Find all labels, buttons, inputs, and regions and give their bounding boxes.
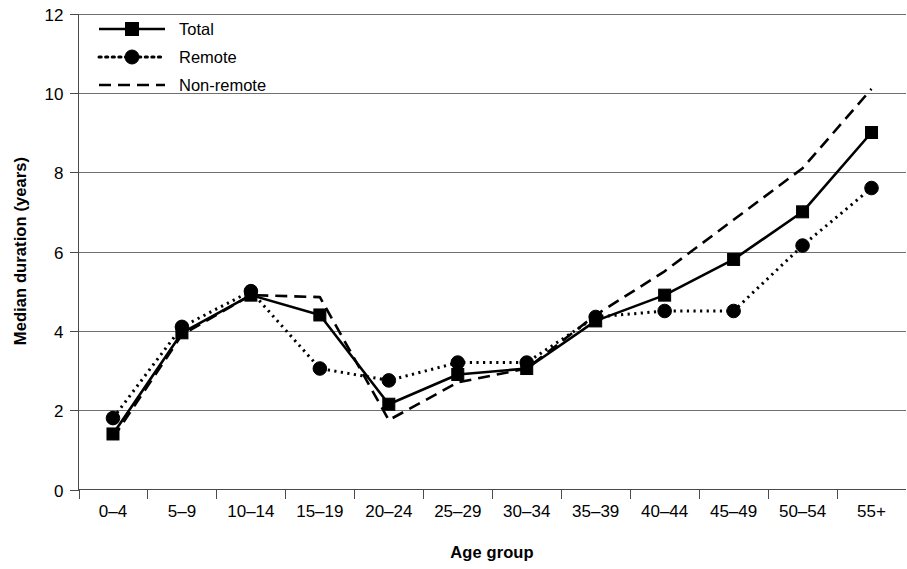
x-tick-label: 35–39 xyxy=(572,502,619,521)
series-line-total xyxy=(113,133,872,435)
data-point xyxy=(106,411,120,425)
y-tick-label: 12 xyxy=(45,6,64,25)
series-non-remote xyxy=(113,89,872,438)
data-point xyxy=(796,239,810,253)
x-tick-label: 40–44 xyxy=(641,502,688,521)
x-axis-title: Age group xyxy=(450,543,533,561)
chart-legend: TotalRemoteNon-remote xyxy=(99,20,266,94)
series-remote xyxy=(106,181,878,425)
legend-label-total: Total xyxy=(179,20,214,38)
x-tick-label: 50–54 xyxy=(779,502,826,521)
data-point xyxy=(313,362,327,376)
data-point xyxy=(865,181,879,195)
line-chart: 024681012 0–45–910–1415–1920–2425–2930–3… xyxy=(0,0,907,569)
chart-figure: 024681012 0–45–910–1415–1920–2425–2930–3… xyxy=(0,0,907,569)
data-point xyxy=(658,304,672,318)
y-tick-label: 0 xyxy=(54,482,63,501)
x-tick-label: 10–14 xyxy=(227,502,274,521)
data-point xyxy=(451,356,465,370)
data-point xyxy=(866,127,878,139)
legend-marker-square xyxy=(126,23,139,36)
data-point xyxy=(728,253,740,265)
legend-marker-circle xyxy=(125,50,139,64)
data-point xyxy=(382,374,396,388)
legend-label-non-remote: Non-remote xyxy=(179,76,266,94)
grid-lines xyxy=(79,15,907,411)
data-point xyxy=(520,356,534,370)
x-tick-label: 20–24 xyxy=(365,502,412,521)
y-tick-label: 6 xyxy=(54,244,63,263)
series-line-non-remote xyxy=(113,89,872,438)
y-axis-ticks xyxy=(70,15,79,491)
x-tick-label: 45–49 xyxy=(710,502,757,521)
y-axis-tick-labels: 024681012 xyxy=(45,6,64,501)
data-point xyxy=(314,309,326,321)
data-point xyxy=(244,284,258,298)
x-tick-label: 0–4 xyxy=(99,502,127,521)
x-tick-label: 55+ xyxy=(857,502,886,521)
x-tick-label: 30–34 xyxy=(503,502,550,521)
series-line-remote xyxy=(113,188,872,418)
y-tick-label: 10 xyxy=(45,85,64,104)
x-tick-label: 5–9 xyxy=(168,502,196,521)
data-point xyxy=(727,304,741,318)
data-point xyxy=(452,368,464,380)
data-point xyxy=(175,320,189,334)
data-point xyxy=(383,398,395,410)
y-tick-label: 2 xyxy=(54,402,63,421)
x-tick-label: 25–29 xyxy=(434,502,481,521)
data-series-group xyxy=(106,89,878,440)
x-tick-label: 15–19 xyxy=(296,502,343,521)
y-axis-title: Median duration (years) xyxy=(11,157,29,345)
data-point xyxy=(659,289,671,301)
y-tick-label: 4 xyxy=(54,323,63,342)
x-axis-tick-labels: 0–45–910–1415–1920–2425–2930–3435–3940–4… xyxy=(99,502,886,521)
x-axis-ticks xyxy=(80,490,838,499)
y-tick-label: 8 xyxy=(54,164,63,183)
data-point xyxy=(797,206,809,218)
legend-label-remote: Remote xyxy=(179,48,237,66)
